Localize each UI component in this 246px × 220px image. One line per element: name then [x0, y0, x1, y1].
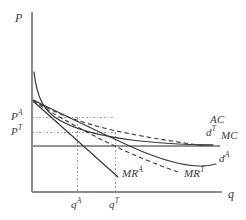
curve-label-dT-sup: T	[212, 124, 216, 133]
curve-AC	[34, 72, 213, 145]
curve-label-AC-base: AC	[210, 113, 224, 125]
price-label-PT: PT	[11, 126, 22, 137]
axes	[32, 12, 222, 192]
curve-MRA	[33, 101, 118, 177]
curve-label-MRA-base: MR	[122, 167, 138, 179]
curve-label-MRT-sup: T	[200, 165, 204, 174]
x-axis-label: q	[228, 188, 234, 200]
curve-label-MRA: MRA	[122, 168, 143, 179]
price-label-PA: PA	[11, 111, 23, 122]
curve-label-MC: MC	[221, 130, 238, 141]
curve-dT	[33, 100, 206, 146]
price-label-PT-sup: T	[18, 123, 22, 132]
curve-label-MRT-base: MR	[184, 167, 200, 179]
y-axis-label: P	[15, 12, 23, 24]
quantity-label-qA: qA	[71, 199, 82, 210]
curve-label-MRA-sup: A	[138, 165, 143, 174]
guide-lines	[32, 117, 115, 192]
curve-label-dT: dT	[206, 127, 216, 138]
price-label-PA-sup: A	[18, 108, 23, 117]
curve-label-MRT: MRT	[184, 168, 205, 179]
curve-label-dA: dA	[219, 153, 230, 164]
economics-diagram: P q PA PT qA qT AC MC dT dA MRA MRT	[0, 0, 246, 220]
diagram-canvas	[0, 0, 246, 220]
curve-label-AC: AC	[210, 114, 224, 125]
quantity-label-qT: qT	[109, 199, 119, 210]
price-label-PT-base: P	[11, 125, 18, 137]
price-label-PA-base: P	[11, 110, 18, 122]
curve-label-dA-sup: A	[225, 150, 230, 159]
quantity-label-qT-sup: T	[115, 196, 119, 205]
quantity-label-qA-sup: A	[77, 196, 82, 205]
curve-label-MC-base: MC	[221, 129, 238, 141]
